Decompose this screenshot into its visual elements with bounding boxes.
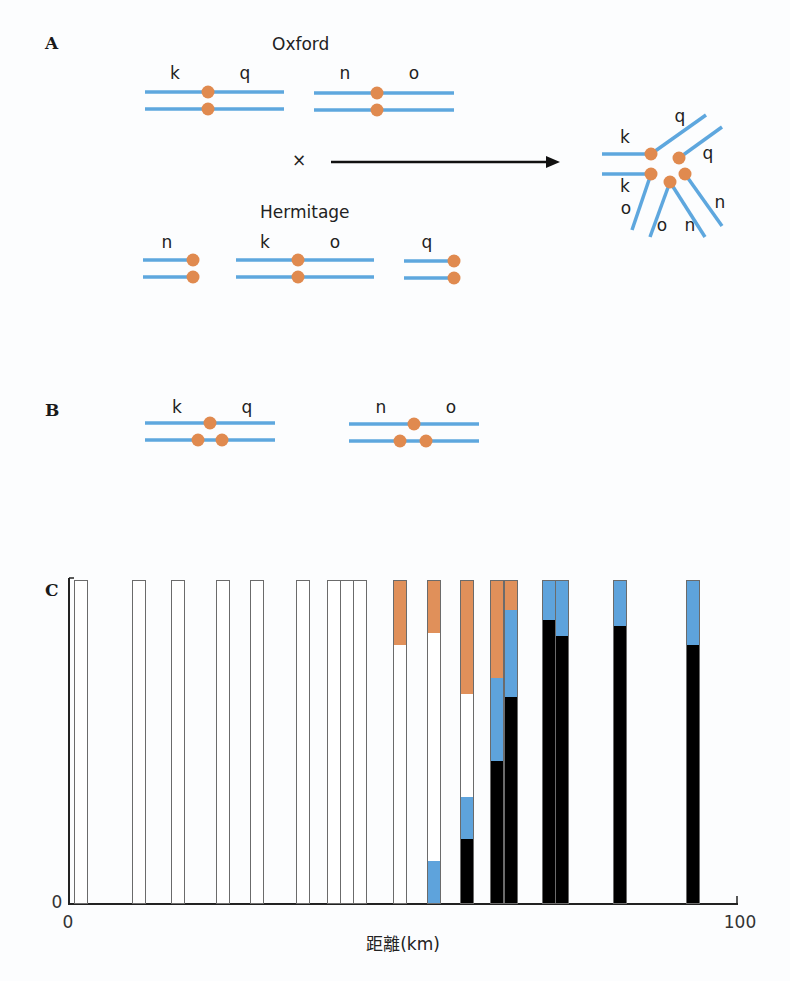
bar-segment-orange — [428, 581, 440, 633]
x-tick-100: 100 — [724, 912, 756, 932]
bar-segment-blue — [505, 610, 517, 697]
bar-segment-black — [491, 761, 503, 903]
bar-segment-black — [505, 697, 517, 903]
bar-segment-orange — [491, 581, 503, 678]
x-tick-0: 0 — [63, 912, 74, 932]
chart-bar — [296, 580, 310, 904]
bar-segment-black — [461, 839, 473, 903]
stacked-bar-chart — [0, 0, 790, 981]
bar-segment-white — [75, 581, 87, 903]
x-axis-label: 距離(km) — [366, 930, 440, 955]
bar-segment-blue — [461, 797, 473, 839]
chart-bar — [171, 580, 185, 904]
bar-segment-white — [217, 581, 229, 903]
bar-segment-white — [172, 581, 184, 903]
bar-segment-blue — [491, 678, 503, 762]
chart-bar — [555, 580, 569, 904]
bar-segment-white — [394, 645, 406, 903]
bar-segment-blue — [428, 861, 440, 903]
bar-segment-black — [543, 620, 555, 903]
chart-bar — [613, 580, 627, 904]
y-tick-0: 0 — [52, 892, 63, 912]
chart-bar — [393, 580, 407, 904]
bar-segment-white — [328, 581, 340, 903]
bar-segment-white — [297, 581, 309, 903]
bar-segment-white — [461, 694, 473, 797]
bar-segment-blue — [614, 581, 626, 626]
bar-segment-white — [341, 581, 353, 903]
bar-segment-blue — [543, 581, 555, 620]
bar-segment-white — [133, 581, 145, 903]
bar-segment-blue — [687, 581, 699, 645]
bar-segment-blue — [556, 581, 568, 636]
bar-segment-white — [354, 581, 366, 903]
chart-bar — [132, 580, 146, 904]
bar-segment-black — [556, 636, 568, 903]
bar-segment-black — [614, 626, 626, 903]
chart-bar — [686, 580, 700, 904]
bar-segment-orange — [461, 581, 473, 694]
chart-bar — [460, 580, 474, 904]
bar-segment-white — [251, 581, 263, 903]
chart-bar — [353, 580, 367, 904]
chart-bar — [427, 580, 441, 904]
bar-segment-white — [428, 633, 440, 862]
chart-bar — [490, 580, 504, 904]
bar-segment-orange — [394, 581, 406, 645]
chart-bar — [74, 580, 88, 904]
bar-segment-orange — [505, 581, 517, 610]
chart-bar — [504, 580, 518, 904]
chart-bar — [250, 580, 264, 904]
bar-segment-black — [687, 645, 699, 903]
chart-bar — [216, 580, 230, 904]
chart-bar — [327, 580, 341, 904]
